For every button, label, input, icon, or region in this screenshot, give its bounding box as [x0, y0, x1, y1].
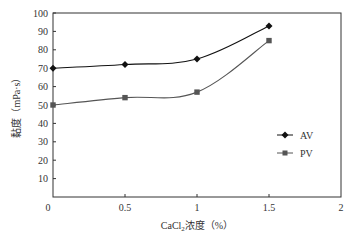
- y-tick-label: 20: [38, 155, 48, 166]
- y-tick-label: 70: [38, 63, 48, 74]
- data-point-square: [266, 38, 271, 43]
- y-tick-label: 10: [38, 173, 48, 184]
- data-point-diamond: [122, 61, 129, 68]
- data-point-square: [194, 89, 199, 94]
- y-axis-title: 黏度（mPa·s）: [10, 73, 22, 138]
- x-tick-label: 0: [46, 202, 51, 213]
- legend-av-diamond-icon: [282, 132, 289, 139]
- x-tick-label: 0.5: [119, 202, 132, 213]
- legend-av-label: AV: [300, 130, 314, 141]
- x-tick-label: 2: [339, 202, 344, 213]
- x-axis-title: CaCl2浓度（%）: [161, 219, 233, 233]
- data-point-diamond: [194, 56, 201, 63]
- legend: AV PV: [277, 130, 314, 159]
- y-tick-label: 30: [38, 136, 48, 147]
- series-pv: [50, 38, 271, 108]
- plot-area: [53, 13, 341, 197]
- data-point-diamond: [50, 65, 57, 72]
- data-point-square: [122, 95, 127, 100]
- y-tick-label: 60: [38, 81, 48, 92]
- y-tick-label: 90: [38, 26, 48, 37]
- data-point-square: [50, 102, 55, 107]
- y-tick-label: 100: [33, 8, 48, 19]
- data-point-diamond: [266, 22, 273, 29]
- y-tick-label: 40: [38, 118, 48, 129]
- x-tick-label: 1: [195, 202, 200, 213]
- y-tick-label: 50: [38, 100, 48, 111]
- y-tick-label: 80: [38, 44, 48, 55]
- x-tick-label: 1.5: [263, 202, 276, 213]
- series-group: [50, 22, 273, 107]
- viscosity-line-chart: 102030405060708090100 00.511.52 黏度（mPa·s…: [0, 0, 354, 241]
- legend-pv-label: PV: [300, 148, 314, 159]
- legend-pv-square-icon: [283, 151, 288, 156]
